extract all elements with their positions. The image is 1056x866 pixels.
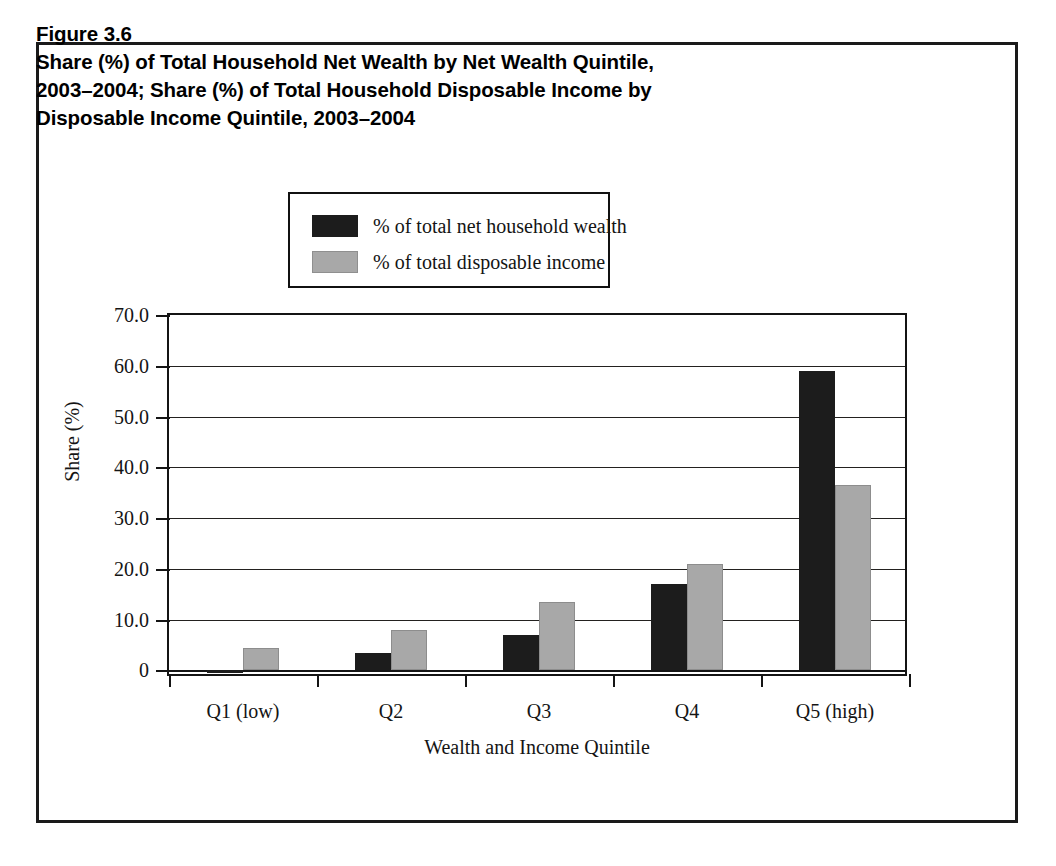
gridline-10.0 — [169, 620, 905, 621]
plot-area: 70.060.050.040.030.020.010.00 Q1 (low)Q2… — [167, 313, 907, 676]
x-tick-end — [909, 674, 911, 687]
zero-baseline — [169, 670, 905, 672]
bar-q4-income — [687, 564, 723, 671]
y-tick-40.0 — [156, 467, 170, 469]
bar-q5high-wealth — [799, 371, 835, 671]
bar-q5high-income — [835, 485, 871, 670]
plot-inner: 70.060.050.040.030.020.010.00 Q1 (low)Q2… — [169, 315, 905, 674]
y-tick-0 — [156, 670, 170, 672]
x-tick-5 — [761, 674, 763, 687]
bar-q3-wealth — [503, 635, 539, 671]
y-axis-title: Share (%) — [61, 362, 84, 522]
y-tick-50.0 — [156, 417, 170, 419]
y-tick-70.0 — [156, 315, 170, 317]
x-tick-4 — [613, 674, 615, 687]
y-tick-label-30.0: 30.0 — [114, 507, 149, 530]
bar-q1low-income — [243, 648, 279, 671]
bar-q2-wealth — [355, 653, 391, 671]
y-tick-label-60.0: 60.0 — [114, 354, 149, 377]
x-tick-1 — [169, 674, 171, 687]
bar-q1low-wealth — [207, 670, 243, 673]
y-tick-label-0: 0 — [139, 659, 149, 682]
gridline-30.0 — [169, 518, 905, 519]
gridline-40.0 — [169, 467, 905, 468]
y-tick-label-40.0: 40.0 — [114, 456, 149, 479]
x-tick-3 — [465, 674, 467, 687]
x-category-label-3: Q3 — [527, 700, 551, 723]
x-category-label-4: Q4 — [675, 700, 699, 723]
bar-q3-income — [539, 602, 575, 671]
y-tick-30.0 — [156, 518, 170, 520]
bar-q4-wealth — [651, 584, 687, 670]
gridline-20.0 — [169, 569, 905, 570]
gridline-60.0 — [169, 366, 905, 367]
x-axis-title: Wealth and Income Quintile — [167, 736, 907, 759]
x-category-label-2: Q2 — [379, 700, 403, 723]
y-tick-label-20.0: 20.0 — [114, 557, 149, 580]
x-category-label-1: Q1 (low) — [207, 700, 280, 723]
bar-q2-income — [391, 630, 427, 671]
gridline-50.0 — [169, 417, 905, 418]
x-tick-2 — [317, 674, 319, 687]
y-tick-20.0 — [156, 569, 170, 571]
y-tick-label-70.0: 70.0 — [114, 304, 149, 327]
y-tick-label-10.0: 10.0 — [114, 608, 149, 631]
y-tick-label-50.0: 50.0 — [114, 405, 149, 428]
chart-plot-wrapper: Share (%) 70.060.050.040.030.020.010.00 … — [0, 0, 982, 781]
x-category-label-5: Q5 (high) — [796, 700, 874, 723]
y-tick-10.0 — [156, 620, 170, 622]
y-tick-60.0 — [156, 366, 170, 368]
